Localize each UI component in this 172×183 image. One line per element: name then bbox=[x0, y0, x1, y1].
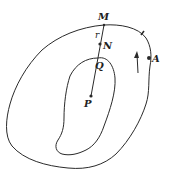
label-q: Q bbox=[95, 60, 104, 71]
label-n: N bbox=[102, 40, 113, 51]
point-m bbox=[103, 24, 105, 26]
label-p: P bbox=[83, 98, 92, 109]
point-a bbox=[147, 56, 151, 60]
diagram-canvas: M r N Q P A bbox=[0, 0, 172, 183]
label-r: r bbox=[95, 30, 100, 40]
label-m: M bbox=[97, 11, 110, 22]
point-n bbox=[98, 42, 101, 45]
up-arrow-icon bbox=[134, 51, 139, 73]
label-a: A bbox=[151, 53, 160, 64]
outer-curve bbox=[7, 25, 151, 169]
